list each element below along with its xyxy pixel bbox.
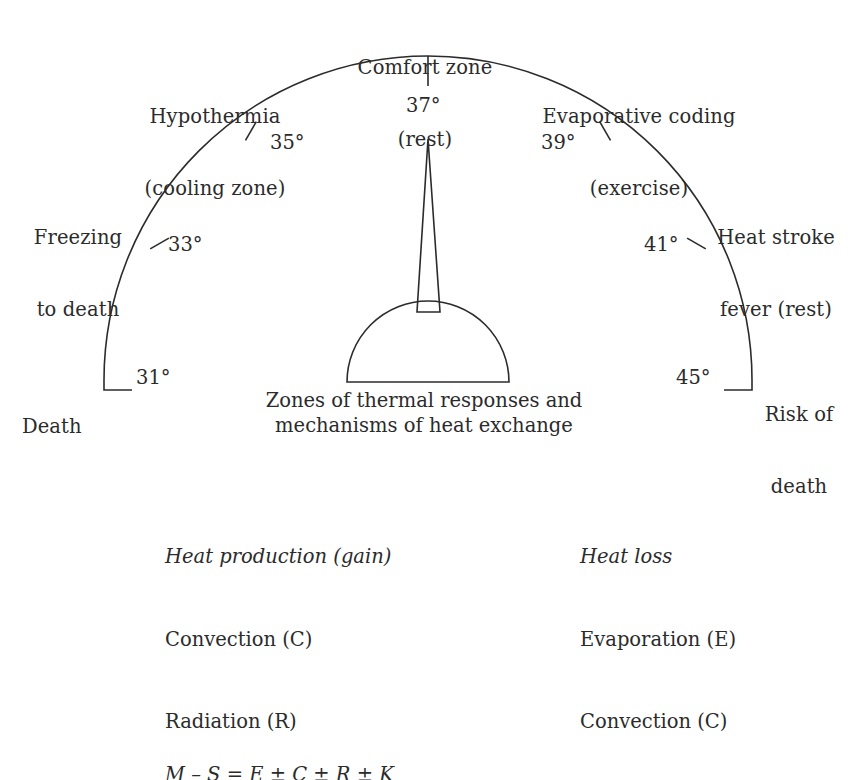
tick-label-39: 39°: [541, 131, 576, 154]
zone-label-heat-stroke-line1: Heat stroke: [717, 226, 835, 250]
zone-label-heat-stroke-line2: fever (rest): [717, 298, 835, 322]
zone-label-evaporative-line1: Evaporative coding: [542, 105, 735, 129]
figure-caption-line2: mechanisms of heat exchange: [0, 413, 848, 438]
zone-label-freezing-line1: Freezing: [34, 226, 122, 250]
legend-heat-loss-item: Evaporation (E): [580, 626, 736, 654]
tick-label-37: 37°: [406, 94, 441, 117]
heat-balance-formula: M – S = E ± C ± R ± K (M = metabolic hea…: [165, 707, 622, 780]
zone-label-hypothermia-line2: (cooling zone): [145, 177, 286, 201]
tick-label-31: 31°: [136, 366, 171, 389]
zone-label-freezing-to-death: Freezing to death: [34, 178, 122, 370]
figure-caption: Zones of thermal responses and mechanism…: [0, 388, 848, 438]
tick-label-45: 45°: [676, 366, 711, 389]
zone-label-risk-of-death: Risk of death: [765, 355, 834, 547]
zone-label-risk-line2: death: [765, 475, 834, 499]
legend-heat-production-item: Convection (C): [165, 626, 442, 654]
zone-label-comfort-zone-line2: (rest): [358, 128, 493, 152]
tick-label-35: 35°: [270, 131, 305, 154]
zone-label-heat-stroke: Heat stroke fever (rest): [717, 178, 835, 370]
zone-label-evaporative-line2: (exercise): [542, 177, 735, 201]
zone-label-freezing-line2: to death: [34, 298, 122, 322]
figure-caption-line1: Zones of thermal responses and: [0, 388, 848, 413]
thermometer-bulb: [347, 301, 509, 382]
zone-label-hypothermia: Hypothermia (cooling zone): [145, 57, 286, 249]
zone-label-comfort-zone-line1: Comfort zone: [358, 56, 493, 80]
legend-heat-loss-title: Heat loss: [580, 543, 736, 571]
formula-equation: M – S = E ± C ± R ± K: [165, 761, 622, 780]
zone-label-hypothermia-line1: Hypothermia: [145, 105, 286, 129]
legend-heat-production-title: Heat production (gain): [165, 543, 442, 571]
tick-label-33: 33°: [168, 233, 203, 256]
tick-label-41: 41°: [644, 233, 679, 256]
thermal-zones-diagram: Comfort zone (rest) Hypothermia (cooling…: [0, 0, 848, 780]
